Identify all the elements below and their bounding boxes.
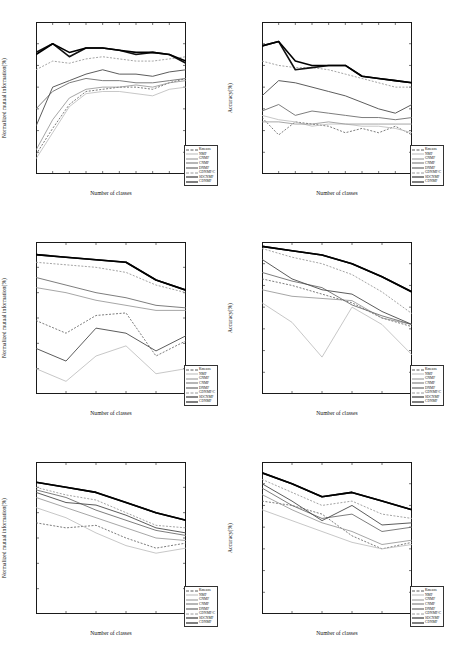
panel-bottom-left: Normalized mutual information(%) Number … (0, 440, 226, 661)
panel-middle-right: Accuracy(%) Number of classes KmeansNMFG… (226, 220, 452, 440)
legend[interactable]: KmeansNMFGNMFCNMFDNMFGDNMF/CSDCNMFCDNMF (410, 365, 444, 406)
y-axis-label-container: Accuracy(%) (234, 22, 248, 174)
legend-swatch (412, 175, 424, 179)
legend-swatch (412, 612, 424, 616)
legend-swatch (186, 148, 198, 152)
series-canvas (36, 22, 186, 174)
y-axis-label-container: Accuracy(%) (234, 462, 248, 614)
y-axis-label: Normalized mutual information(%) (1, 498, 7, 578)
legend[interactable]: KmeansNMFGNMFCNMFDNMFGDNMF/CSDCNMFCDNMF (410, 586, 444, 627)
legend-swatch (186, 180, 198, 184)
legend[interactable]: KmeansNMFGNMFCNMFDNMFGDNMF/CSDCNMFCDNMF (184, 586, 218, 627)
plot-area (36, 22, 186, 174)
series-line (36, 78, 186, 108)
x-axis-label: Number of classes (36, 410, 186, 416)
series-line (36, 288, 186, 311)
legend-swatch (412, 400, 424, 404)
legend-label: CDNMF (199, 620, 211, 625)
legend-swatch (412, 171, 424, 175)
series-line (36, 78, 186, 154)
figure-sheet: Normalized mutual information(%) Number … (0, 0, 452, 661)
legend-swatch (186, 372, 198, 376)
legend-label: CDNMF (425, 620, 437, 625)
legend-label: CDNMF (199, 179, 211, 184)
legend-swatch (412, 621, 424, 625)
legend-swatch (186, 612, 198, 616)
y-axis-label: Accuracy(%) (227, 523, 233, 553)
series-line (36, 497, 186, 540)
legend-swatch (412, 372, 424, 376)
legend-swatch (186, 400, 198, 404)
legend-swatch (412, 395, 424, 399)
legend-swatch (412, 377, 424, 381)
legend-swatch (186, 589, 198, 593)
legend-swatch (186, 593, 198, 597)
legend-swatch (412, 589, 424, 593)
panel-bottom-right: Accuracy(%) Number of classes KmeansNMFG… (226, 440, 452, 661)
legend-item[interactable]: CDNMF (412, 620, 441, 625)
panel-middle-left: Normalized mutual information(%) Number … (0, 220, 226, 440)
legend-item[interactable]: CDNMF (186, 179, 215, 184)
legend-swatch (412, 368, 424, 372)
plot-area (36, 462, 186, 614)
x-axis-label: Number of classes (262, 410, 412, 416)
legend-swatch (186, 161, 198, 165)
legend-swatch (412, 602, 424, 606)
panel-top-right: Accuracy(%) Number of classes KmeansNMFG… (226, 0, 452, 220)
series-line (36, 255, 186, 290)
series-line (262, 501, 412, 549)
legend-item[interactable]: CDNMF (412, 179, 441, 184)
legend-swatch (412, 593, 424, 597)
legend-swatch (186, 377, 198, 381)
legend-swatch (412, 391, 424, 395)
series-line (36, 328, 186, 361)
plot-area (262, 242, 412, 394)
legend[interactable]: KmeansNMFGNMFCNMFDNMFGDNMF/CSDCNMFCDNMF (184, 145, 218, 186)
series-canvas (36, 462, 186, 614)
series-line (36, 70, 186, 126)
legend-swatch (186, 368, 198, 372)
legend-swatch (412, 386, 424, 390)
series-line (36, 346, 186, 381)
legend-swatch (412, 598, 424, 602)
y-axis-label: Normalized mutual information(%) (1, 278, 7, 358)
x-axis-label: Number of classes (262, 630, 412, 636)
legend-swatch (412, 161, 424, 165)
legend-swatch (412, 180, 424, 184)
legend[interactable]: KmeansNMFGNMFCNMFDNMFGDNMF/CSDCNMFCDNMF (410, 145, 444, 186)
legend-swatch (412, 381, 424, 385)
series-line (262, 303, 412, 357)
series-line (262, 42, 412, 83)
legend-item[interactable]: CDNMF (186, 620, 215, 625)
legend-swatch (186, 616, 198, 620)
legend-item[interactable]: CDNMF (186, 399, 215, 404)
legend-swatch (186, 386, 198, 390)
legend[interactable]: KmeansNMFGNMFCNMFDNMFGDNMF/CSDCNMFCDNMF (184, 365, 218, 406)
series-line (262, 290, 412, 325)
series-line (36, 523, 186, 548)
y-axis-label: Normalized mutual information(%) (1, 58, 7, 138)
legend-label: CDNMF (425, 179, 437, 184)
series-line (36, 313, 186, 356)
y-axis-label-container: Accuracy(%) (234, 242, 248, 394)
legend-swatch (186, 621, 198, 625)
legend-swatch (412, 607, 424, 611)
legend-swatch (186, 175, 198, 179)
legend-swatch (186, 598, 198, 602)
legend-swatch (186, 166, 198, 170)
series-line (36, 262, 186, 292)
legend-swatch (412, 157, 424, 161)
plot-area (36, 242, 186, 394)
legend-swatch (186, 171, 198, 175)
legend-swatch (186, 395, 198, 399)
legend-swatch (412, 148, 424, 152)
plot-area (262, 462, 412, 614)
y-axis-label-container: Normalized mutual information(%) (8, 462, 22, 614)
legend-label: CDNMF (425, 399, 437, 404)
legend-item[interactable]: CDNMF (412, 399, 441, 404)
legend-swatch (412, 166, 424, 170)
legend-label: CDNMF (199, 399, 211, 404)
series-canvas (262, 22, 412, 174)
legend-swatch (412, 616, 424, 620)
legend-swatch (186, 157, 198, 161)
